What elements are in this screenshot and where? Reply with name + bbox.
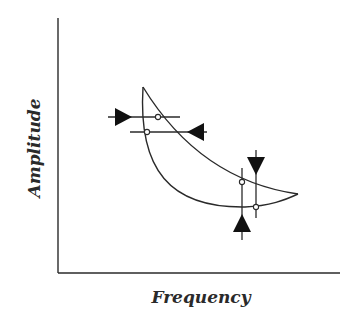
jump-point-upper-right bbox=[239, 179, 244, 184]
arrow-down-icon bbox=[247, 157, 265, 175]
arrow-right-icon bbox=[115, 108, 132, 126]
jump-point-lower-right bbox=[253, 204, 258, 209]
x-axis-label: Frequency bbox=[150, 287, 251, 307]
frequency-response-diagram: Frequency Amplitude bbox=[0, 0, 353, 328]
jump-point-lower-left bbox=[144, 129, 149, 134]
y-axis-label: Amplitude bbox=[24, 98, 44, 199]
arrow-up-icon bbox=[233, 214, 251, 232]
upper-branch-curve bbox=[143, 87, 298, 194]
arrow-left-icon bbox=[187, 123, 204, 141]
jump-point-upper-left bbox=[155, 114, 160, 119]
